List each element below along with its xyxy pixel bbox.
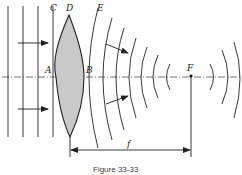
- diverging-wavefronts: [210, 42, 240, 118]
- label-b: B: [85, 65, 93, 75]
- converging-arrow-upper: [106, 44, 128, 53]
- converging-lens-diagram: C D E A B F f Figure 33-33: [0, 0, 242, 175]
- lens: [55, 15, 84, 137]
- label-a: A: [44, 65, 52, 75]
- figure-caption: Figure 33-33: [93, 165, 139, 174]
- label-c: C: [50, 3, 57, 13]
- label-e: E: [96, 3, 104, 13]
- label-d: D: [65, 3, 73, 13]
- label-f-length: f: [126, 139, 132, 149]
- label-f-point: F: [186, 63, 194, 73]
- converging-wavefronts: [89, 8, 170, 148]
